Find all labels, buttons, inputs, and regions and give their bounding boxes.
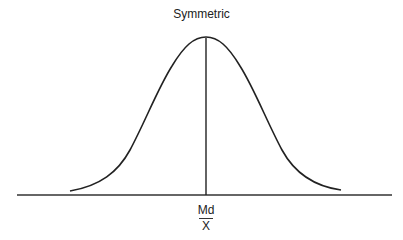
symmetric-distribution-diagram: Symmetric Md X	[0, 0, 403, 240]
median-label: Md	[191, 203, 221, 217]
mean-label: X	[191, 219, 221, 233]
diagram-title: Symmetric	[0, 7, 403, 21]
